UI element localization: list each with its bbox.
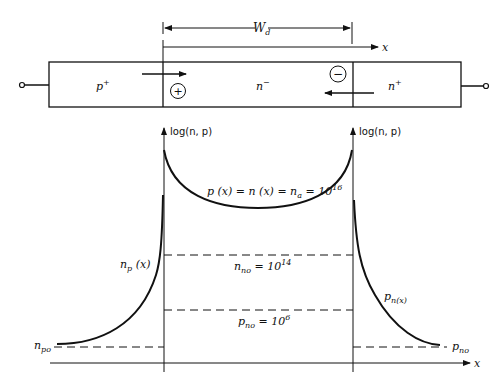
p-no-right-label: pno bbox=[452, 340, 469, 355]
n-po-label: npo bbox=[34, 339, 51, 354]
electron-injection: − bbox=[325, 66, 374, 93]
center-curve-label: p (x) = n (x) = na = 1016 bbox=[207, 183, 342, 200]
x-label-top: x bbox=[382, 41, 389, 54]
region-p-plus: p+ bbox=[96, 78, 110, 93]
pin-diode-diagram: Wd x p+ n− n+ + − log(n, p) log(n, p) bbox=[0, 0, 493, 385]
right-terminal bbox=[461, 84, 489, 89]
right-axis-label: log(n, p) bbox=[359, 126, 401, 137]
center-carrier-curve bbox=[164, 150, 352, 208]
region-n-minus: n− bbox=[256, 78, 270, 93]
svg-text:+: + bbox=[173, 85, 182, 98]
hole-injection: + bbox=[142, 74, 186, 99]
svg-text:−: − bbox=[333, 67, 343, 81]
plot-x-label: x bbox=[474, 357, 481, 370]
region-n-plus: n+ bbox=[388, 78, 402, 93]
depletion-width-dimension: Wd bbox=[163, 21, 352, 44]
left-log-axis: log(n, p) bbox=[164, 126, 212, 372]
left-curve-label: np (x) bbox=[120, 258, 151, 273]
plot-x-axis: x bbox=[50, 357, 481, 370]
n-no-label: nno = 1014 bbox=[234, 258, 291, 275]
position-axis-top: x bbox=[163, 40, 389, 62]
left-axis-label: log(n, p) bbox=[170, 126, 212, 137]
right-minority-curve bbox=[354, 200, 440, 345]
right-log-axis: log(n, p) bbox=[353, 126, 401, 372]
right-curve-label: pn(x) bbox=[384, 290, 407, 305]
depletion-width-label: Wd bbox=[253, 21, 270, 37]
left-terminal bbox=[20, 83, 50, 88]
p-no-label: pno = 106 bbox=[238, 313, 290, 330]
